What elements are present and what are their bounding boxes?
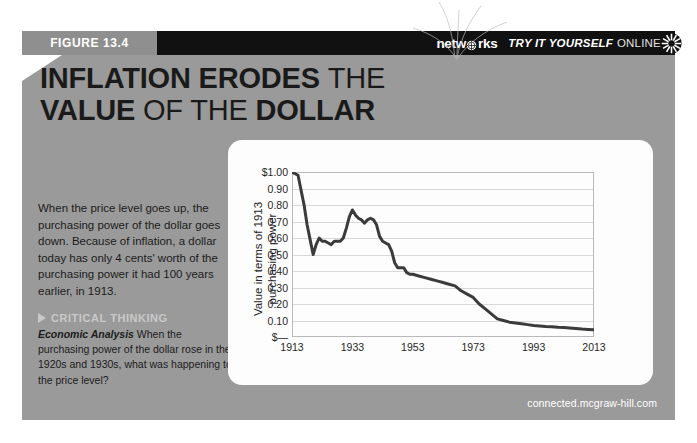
economic-analysis-lead: Economic Analysis [38,328,134,340]
title-word-inflation-erodes: INFLATION ERODES [40,62,320,94]
economic-analysis-block: Economic Analysis When the purchasing po… [38,327,233,389]
try-it-yourself-label: TRY IT YOURSELF [508,37,613,49]
figure-page: FIGURE 13.4 netw rks TRY IT YOURSELF ONL [0,0,697,443]
try-it-yourself-online[interactable]: TRY IT YOURSELF ONLINE [508,37,661,49]
critical-thinking-label: CRITICAL THINKING [51,312,168,324]
y-tick-label: 0.20 [268,298,288,310]
y-tick-label: $1.00 [262,166,288,178]
networks-logo-text-before: netw [436,36,466,51]
y-tick-label: 0.40 [268,265,288,277]
online-label: ONLINE [617,37,661,49]
critical-thinking-heading: CRITICAL THINKING [38,312,233,324]
chart-plot: $1.000.900.800.700.600.500.400.300.200.1… [292,172,594,337]
x-tick-label: 1973 [462,341,485,353]
y-tick-label: 0.90 [268,183,288,195]
figure-title: INFLATION ERODES THE VALUE OF THE DOLLAR [40,62,440,127]
title-word-the: THE [328,62,385,94]
footer-url[interactable]: connected.mcgraw-hill.com [527,397,657,409]
x-tick-label: 2013 [582,341,605,353]
series-line [292,172,594,330]
figure-title-line-1: INFLATION ERODES THE [40,62,440,94]
sunburst-icon[interactable] [657,29,686,58]
title-word-of-the: OF THE [143,94,248,126]
y-tick-label: 0.60 [268,232,288,244]
figure-caption-column: When the price level goes up, the purcha… [38,200,233,388]
triangle-right-icon [38,313,46,323]
x-tick-label: 1933 [341,341,364,353]
chart-line-series [292,172,594,337]
figure-title-line-2: VALUE OF THE DOLLAR [40,94,440,126]
networks-header-band: netw rks TRY IT YOURSELF ONLINE [157,31,675,55]
x-tick-label: 1913 [280,341,303,353]
y-tick-label: 0.50 [268,249,288,261]
title-word-dollar: DOLLAR [255,94,375,126]
x-tick-label: 1953 [401,341,424,353]
y-tick-label: 0.80 [268,199,288,211]
figure-number-tab: FIGURE 13.4 [22,31,157,55]
figure-number-label: FIGURE 13.4 [50,36,129,50]
x-tick-label: 1993 [522,341,545,353]
networks-logo-text-after: rks [478,36,497,51]
y-tick-label: 0.30 [268,282,288,294]
caption-paragraph: When the price level goes up, the purcha… [38,200,233,300]
y-tick-label: 0.10 [268,315,288,327]
title-word-value: VALUE [40,94,135,126]
y-tick-label: 0.70 [268,216,288,228]
globe-icon [466,39,477,50]
networks-logo[interactable]: netw rks [436,36,497,51]
